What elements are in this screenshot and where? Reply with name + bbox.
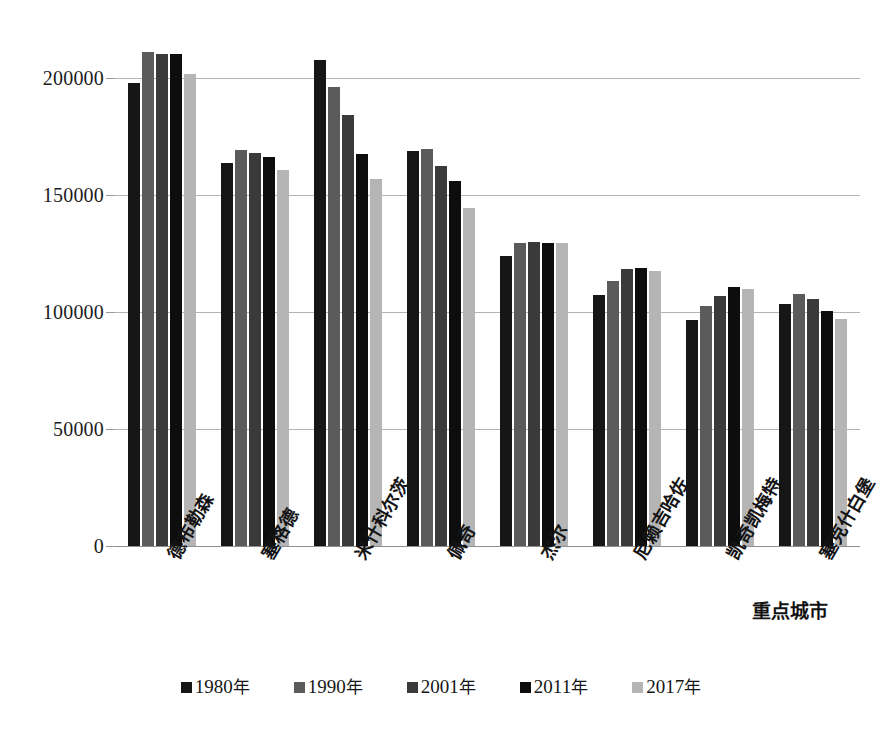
legend-item[interactable]: 2011年 (520, 676, 588, 698)
y-axis-tick-label: 50000 (4, 419, 104, 439)
bar[interactable] (328, 87, 340, 546)
bar[interactable] (142, 52, 154, 546)
bar[interactable] (235, 150, 247, 546)
bar[interactable] (593, 295, 605, 546)
y-axis-tick-mark (106, 195, 115, 196)
bar[interactable] (821, 311, 833, 546)
y-axis-tick-label: 0 (4, 536, 104, 556)
bar-group (208, 0, 301, 546)
y-axis-tick-label: 100000 (4, 302, 104, 322)
bar-group (767, 0, 860, 546)
legend-item[interactable]: 2001年 (407, 676, 476, 698)
legend-swatch-icon (407, 682, 418, 693)
bar[interactable] (314, 60, 326, 546)
bar[interactable] (635, 268, 647, 546)
bar-group (488, 0, 581, 546)
y-axis-tick-label: 150000 (4, 185, 104, 205)
bar[interactable] (714, 296, 726, 546)
x-axis-title: 重点城市 (752, 600, 828, 622)
plot-area: 050000100000150000200000 德布勒森塞格德米什科尔茨佩奇杰… (0, 0, 882, 560)
legend-label: 2001年 (421, 676, 476, 698)
bar-group (394, 0, 487, 546)
bar[interactable] (184, 74, 196, 546)
bar[interactable] (356, 154, 368, 546)
bar[interactable] (556, 243, 568, 546)
legend-item[interactable]: 1980年 (181, 676, 250, 698)
legend-item[interactable]: 2017年 (632, 676, 701, 698)
bar[interactable] (277, 170, 289, 546)
bar[interactable] (170, 54, 182, 546)
bar[interactable] (607, 281, 619, 546)
legend-swatch-icon (181, 682, 192, 693)
bar[interactable] (156, 54, 168, 546)
legend-swatch-icon (294, 682, 305, 693)
bar-group (115, 0, 208, 546)
legend-swatch-icon (632, 682, 643, 693)
bar[interactable] (728, 287, 740, 546)
bar[interactable] (807, 299, 819, 546)
bar-chart: 050000100000150000200000 德布勒森塞格德米什科尔茨佩奇杰… (0, 0, 882, 749)
y-axis-tick-mark (106, 312, 115, 313)
bar[interactable] (779, 304, 791, 546)
bar[interactable] (449, 181, 461, 546)
y-axis-tick-mark (106, 546, 115, 547)
legend-item[interactable]: 1990年 (294, 676, 363, 698)
bar[interactable] (500, 256, 512, 546)
bar[interactable] (421, 149, 433, 546)
x-axis-category-labels: 德布勒森塞格德米什科尔茨佩奇杰尔尼赖吉哈佐凯奇凯梅特塞克什白堡 (115, 548, 860, 688)
legend-label: 2017年 (646, 676, 701, 698)
bar-group (301, 0, 394, 546)
caption-artifact (100, 716, 780, 736)
bar[interactable] (435, 166, 447, 546)
legend-label: 1990年 (308, 676, 363, 698)
bar[interactable] (128, 83, 140, 546)
bar[interactable] (221, 163, 233, 546)
y-axis: 050000100000150000200000 (0, 0, 104, 560)
bar[interactable] (514, 243, 526, 546)
bar[interactable] (700, 306, 712, 546)
y-axis-tick-mark (106, 429, 115, 430)
bar[interactable] (542, 243, 554, 546)
legend: 1980年1990年2001年2011年2017年 (0, 676, 882, 698)
bar[interactable] (263, 157, 275, 546)
bar[interactable] (463, 208, 475, 546)
bar[interactable] (249, 153, 261, 546)
bar[interactable] (686, 320, 698, 546)
legend-label: 1980年 (195, 676, 250, 698)
legend-label: 2011年 (534, 676, 588, 698)
y-axis-tick-label: 200000 (4, 68, 104, 88)
bar[interactable] (793, 294, 805, 546)
bars-layer (115, 0, 860, 546)
bar[interactable] (528, 242, 540, 546)
bar[interactable] (621, 269, 633, 546)
y-axis-tick-mark (106, 78, 115, 79)
bar[interactable] (342, 115, 354, 546)
legend-swatch-icon (520, 682, 531, 693)
bar[interactable] (370, 179, 382, 546)
bar-group (581, 0, 674, 546)
bar-group (674, 0, 767, 546)
